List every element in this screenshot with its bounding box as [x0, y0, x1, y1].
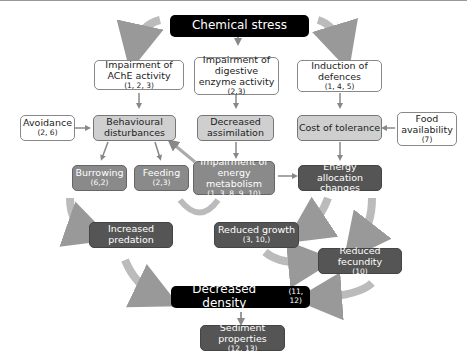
node-label: Impairment of digestive enzyme activity	[195, 55, 278, 88]
node-label: Cost of tolerance	[299, 123, 380, 134]
node-ref: (11, 12)	[282, 288, 310, 305]
node-ref: (2, 6)	[37, 129, 57, 138]
node-label: Behavioural disturbances	[94, 117, 175, 139]
node-chemical-stress: Chemical stress	[170, 15, 309, 37]
node-ref: (1, 2, 3)	[124, 82, 154, 91]
node-label: Food availability	[398, 114, 456, 136]
node-ref: (6,2)	[91, 179, 109, 188]
arrow-behaviour-to-feeding	[155, 142, 160, 158]
arrow-allocation-to-fecundity	[358, 198, 372, 243]
node-label: Decreased density	[171, 283, 278, 311]
node-ref: (2,3)	[228, 88, 246, 97]
node-tolerance: Cost of tolerance	[297, 115, 382, 141]
node-energy-metabolism: Impairment of energy metabolism (1, 3, 8…	[193, 161, 275, 195]
node-ref: (10)	[352, 268, 367, 277]
node-label: Induction of defences	[298, 61, 381, 83]
node-ref: (1, 3, 8, 9, 10)	[207, 190, 261, 199]
node-ache: Impairment of AChE activity (1, 2, 3)	[94, 60, 184, 90]
node-ref: (12, 13)	[228, 345, 258, 354]
node-label: Sediment properties	[201, 323, 284, 345]
arrow-growth-to-fecundity	[265, 252, 312, 263]
node-growth: Reduced growth (3, 10,)	[214, 222, 299, 248]
node-ref: (7)	[422, 136, 433, 145]
arrow-fecundity-to-density	[318, 283, 372, 298]
node-ref: (2,3)	[153, 179, 171, 188]
node-label: Chemical stress	[192, 19, 287, 33]
node-label: Increased predation	[90, 224, 172, 246]
node-energy-allocation: Energy allocation changes	[298, 165, 382, 191]
arrow-stress-to-defences	[318, 20, 342, 48]
node-predation: Increased predation	[89, 222, 173, 248]
arrow-metabolism-to-behaviour	[172, 143, 195, 162]
node-density: Decreased density (11, 12)	[171, 286, 310, 308]
node-fecundity: Reduced fecundity (10)	[318, 248, 402, 274]
arrow-behaviour-to-burrowing	[102, 142, 108, 158]
node-food: Food availability (7)	[397, 112, 457, 146]
node-avoidance: Avoidance (2, 6)	[20, 115, 75, 141]
node-behaviour: Behavioural disturbances	[93, 115, 176, 141]
node-ref: (1, 4, 5)	[325, 83, 355, 92]
node-assimilation: Decreased assimilation	[197, 115, 274, 141]
arrow-stress-to-ache	[135, 20, 160, 48]
arrow-allocation-to-growth	[305, 198, 328, 230]
node-label: Reduced fecundity	[319, 246, 401, 268]
node-sediment: Sediment properties (12, 13)	[200, 325, 285, 351]
node-burrowing: Burrowing (6,2)	[72, 165, 127, 191]
arrow-burrowing-to-predation	[70, 198, 90, 232]
arrow-loop-feeding-metabolism	[180, 200, 218, 213]
node-feeding: Feeding (2,3)	[134, 165, 189, 191]
node-label: Energy allocation changes	[299, 162, 381, 195]
node-ref: (3, 10,)	[243, 236, 270, 245]
node-label: Impairment of AChE activity	[95, 60, 183, 82]
node-defences: Induction of defences (1, 4, 5)	[297, 60, 382, 92]
arrow-predation-to-density	[125, 260, 158, 296]
node-label: Impairment of energy metabolism	[194, 157, 274, 190]
node-label: Decreased assimilation	[198, 117, 273, 139]
node-digestive: Impairment of digestive enzyme activity …	[194, 57, 279, 95]
diagram-canvas: Chemical stress Impairment of AChE activ…	[0, 0, 467, 364]
